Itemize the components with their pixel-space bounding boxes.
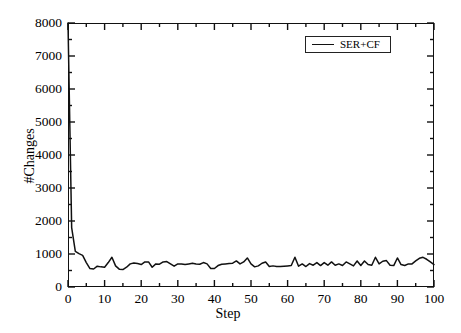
y-tick-label: 8000 bbox=[6, 16, 62, 30]
x-tick-label: 90 bbox=[377, 292, 417, 306]
y-tick-label: 6000 bbox=[6, 82, 62, 96]
x-tick-label: 30 bbox=[158, 292, 198, 306]
x-axis-title: Step bbox=[168, 306, 288, 322]
y-axis-title: #Changes bbox=[22, 106, 38, 206]
x-tick-label: 40 bbox=[194, 292, 234, 306]
chart-figure: 010002000300040005000600070008000 010203… bbox=[0, 0, 461, 333]
x-tick-label: 80 bbox=[341, 292, 381, 306]
legend-line-swatch bbox=[312, 44, 334, 45]
x-tick-label: 60 bbox=[268, 292, 308, 306]
x-tick-label: 20 bbox=[121, 292, 161, 306]
x-tick-label: 0 bbox=[48, 292, 88, 306]
chart-legend: SER+CF bbox=[305, 36, 391, 53]
y-tick-label: 1000 bbox=[6, 247, 62, 261]
y-tick-label: 7000 bbox=[6, 49, 62, 63]
legend-label-ser-cf: SER+CF bbox=[340, 39, 380, 50]
y-tick-label: 2000 bbox=[6, 214, 62, 228]
x-tick-label: 70 bbox=[304, 292, 344, 306]
x-tick-label: 100 bbox=[414, 292, 454, 306]
x-tick-label: 10 bbox=[85, 292, 125, 306]
plot-area bbox=[68, 23, 434, 287]
x-tick-label: 50 bbox=[231, 292, 271, 306]
